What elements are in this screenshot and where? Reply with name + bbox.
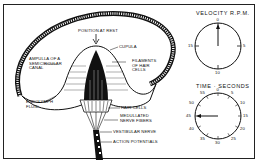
velocity-dial [195, 23, 241, 69]
label-vestibular-nerve: VESTIBULAR NERVE [113, 130, 156, 135]
velocity-tick-0: 0 [217, 18, 219, 23]
velocity-tick-10: 10 [215, 71, 220, 76]
time-tick-20: 20 [240, 127, 245, 132]
time-tick-0: 0 [217, 88, 219, 93]
velocity-dial-title: VELOCITY R.P.M. [196, 10, 250, 16]
time-tick-35: 35 [200, 137, 205, 142]
velocity-tick-5: 5 [243, 44, 245, 49]
time-tick-50: 50 [189, 101, 194, 106]
label-cupula: CUPULA [119, 45, 137, 50]
label-hair-cells: HAIR CELLS [121, 106, 146, 111]
time-tick-15: 15 [243, 114, 248, 119]
velocity-tick-15: 15 [188, 44, 193, 49]
time-tick-25: 25 [231, 137, 236, 142]
time-tick-45: 45 [186, 114, 191, 119]
time-tick-55: 55 [200, 91, 205, 96]
label-position-at-rest: POSITION AT REST [78, 29, 118, 34]
label-action-potentials: ACTION POTENTIALS [113, 140, 158, 145]
time-tick-40: 40 [189, 127, 194, 132]
time-tick-10: 10 [240, 101, 245, 106]
time-tick-30: 30 [215, 141, 220, 146]
label-medullated-2: NERVE FIBERS [120, 119, 152, 124]
label-filaments-3: CELLS [132, 68, 146, 73]
label-endolymph-2: FLUID [26, 105, 39, 110]
time-dial [195, 93, 241, 139]
label-ampulla-3: CANAL [29, 66, 43, 71]
time-dial-title: TIME · SECONDS [196, 83, 250, 89]
time-tick-5: 5 [231, 91, 233, 96]
